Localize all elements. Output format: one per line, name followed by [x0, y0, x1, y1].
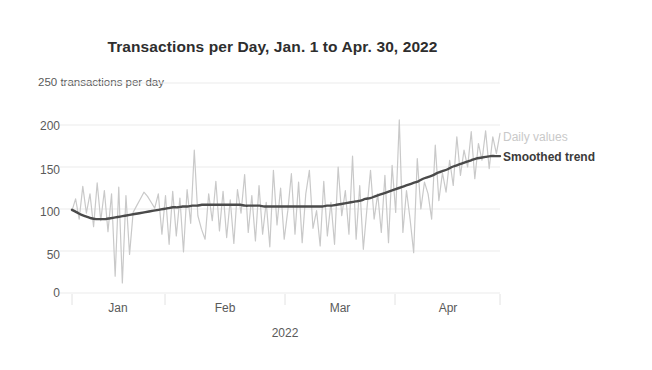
legend-label-smoothed-trend: Smoothed trend: [503, 150, 595, 164]
plot-area: [0, 0, 652, 370]
series-line-daily-values: [72, 120, 500, 283]
x-tick-separator-group: [72, 294, 500, 305]
gridline-group: [60, 83, 500, 293]
series-line-smoothed-trend: [72, 156, 500, 219]
legend-label-daily-values: Daily values: [503, 130, 568, 144]
chart-figure: Transactions per Day, Jan. 1 to Apr. 30,…: [0, 0, 652, 370]
